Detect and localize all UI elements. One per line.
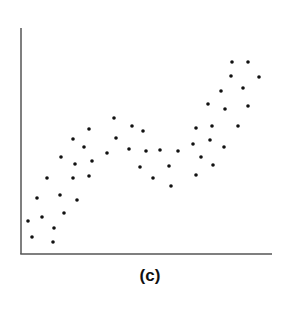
data-point: [59, 155, 63, 159]
data-point: [191, 142, 195, 146]
data-point: [246, 60, 250, 64]
data-point: [87, 127, 91, 131]
data-point: [127, 147, 131, 151]
data-point: [71, 137, 75, 141]
data-point: [208, 138, 212, 142]
data-point: [229, 74, 233, 78]
data-point: [199, 155, 203, 159]
data-point: [194, 126, 198, 130]
data-point: [114, 136, 118, 140]
data-point: [230, 60, 234, 64]
data-point: [144, 149, 148, 153]
data-point: [206, 102, 210, 106]
data-point: [169, 184, 173, 188]
chart-caption: (c): [0, 266, 300, 286]
data-point: [45, 176, 49, 180]
data-point: [219, 89, 223, 93]
data-point: [151, 176, 155, 180]
data-point: [73, 162, 77, 166]
data-point: [257, 75, 261, 79]
data-point: [58, 193, 62, 197]
data-point: [194, 173, 198, 177]
data-point: [52, 226, 56, 230]
data-point: [82, 145, 86, 149]
data-points: [26, 60, 261, 244]
data-point: [40, 215, 44, 219]
data-point: [30, 235, 34, 239]
data-point: [141, 129, 145, 133]
data-point: [87, 174, 91, 178]
data-point: [26, 219, 30, 223]
data-point: [71, 176, 75, 180]
data-point: [62, 211, 66, 215]
data-point: [241, 86, 245, 90]
data-point: [35, 196, 39, 200]
data-point: [105, 151, 109, 155]
data-point: [158, 148, 162, 152]
data-point: [112, 116, 116, 120]
data-point: [222, 145, 226, 149]
data-point: [246, 104, 250, 108]
data-point: [138, 165, 142, 169]
data-point: [223, 107, 227, 111]
data-point: [130, 124, 134, 128]
scatter-plot: [0, 0, 300, 311]
data-point: [236, 124, 240, 128]
data-point: [211, 163, 215, 167]
data-point: [75, 198, 79, 202]
data-point: [51, 240, 55, 244]
data-point: [210, 124, 214, 128]
data-point: [167, 164, 171, 168]
data-point: [176, 149, 180, 153]
data-point: [90, 159, 94, 163]
